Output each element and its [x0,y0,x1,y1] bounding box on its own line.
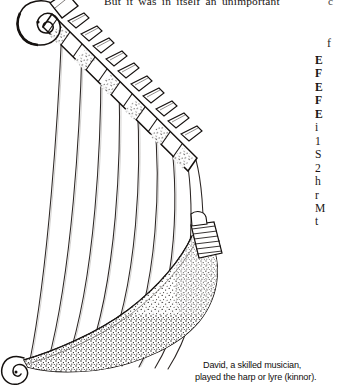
scanned-book-page: But it was in itself an unimportant c f … [0,0,337,390]
tuning-pegs [68,13,202,141]
harp-neck [43,14,198,171]
caption-line-1: David, a skilled musician, [203,360,337,372]
harp-illustration [0,0,337,390]
caption-line-2: played the harp or lyre (kinnor). [195,372,337,384]
figure-caption: David, a skilled musician, played the ha… [203,360,337,383]
